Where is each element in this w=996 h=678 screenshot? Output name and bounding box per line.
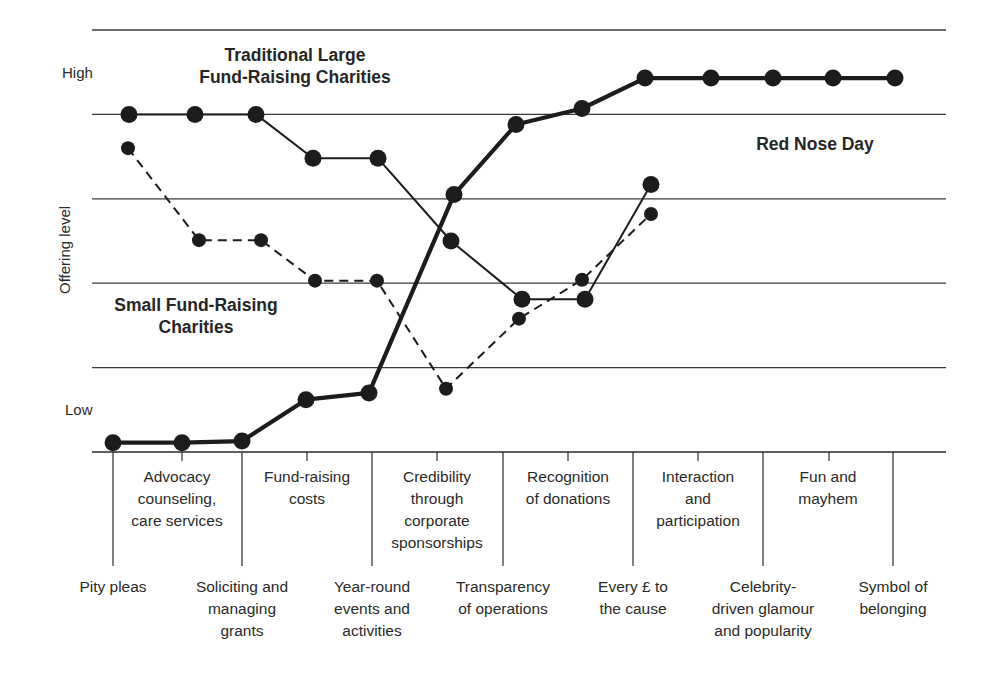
data-point-small-charities	[439, 382, 453, 396]
data-point-red-nose-day	[637, 70, 654, 87]
data-point-small-charities	[192, 233, 206, 247]
x-category-label-lower: Every £ to the cause	[563, 576, 703, 620]
data-point-red-nose-day	[703, 70, 720, 87]
data-point-red-nose-day	[234, 433, 251, 450]
data-point-traditional-large	[187, 106, 204, 123]
data-point-traditional-large	[443, 233, 460, 250]
y-level-low: Low	[65, 401, 93, 418]
x-category-label-lower: Celebrity- driven glamour and popularity	[693, 576, 833, 642]
x-category-label-lower: Symbol of belonging	[823, 576, 963, 620]
series-lines	[105, 70, 904, 452]
x-category-label-lower: Pity pleas	[43, 576, 183, 598]
x-category-label-lower: Soliciting and managing grants	[172, 576, 312, 642]
data-point-red-nose-day	[446, 186, 463, 203]
data-point-red-nose-day	[174, 434, 191, 451]
data-point-red-nose-day	[574, 100, 591, 117]
data-point-traditional-large	[121, 106, 138, 123]
data-point-red-nose-day	[508, 116, 525, 133]
data-point-red-nose-day	[765, 70, 782, 87]
y-axis-title: Offering level	[56, 206, 73, 294]
data-point-red-nose-day	[105, 434, 122, 451]
data-point-red-nose-day	[298, 391, 315, 408]
series-line-traditional-large	[129, 114, 651, 299]
data-point-red-nose-day	[361, 384, 378, 401]
data-point-small-charities	[644, 207, 658, 221]
data-point-small-charities	[121, 141, 135, 155]
x-category-label-upper: Recognition of donations	[504, 466, 632, 510]
data-point-red-nose-day	[825, 70, 842, 87]
x-category-label-upper: Fun and mayhem	[764, 466, 892, 510]
data-point-red-nose-day	[887, 70, 904, 87]
series-line-small-charities	[128, 148, 651, 389]
data-point-traditional-large	[248, 106, 265, 123]
x-category-label-upper: Credibility through corporate sponsorshi…	[373, 466, 501, 554]
series-label-small: Small Fund-Raising Charities	[86, 294, 306, 338]
data-point-small-charities	[370, 274, 384, 288]
y-level-high: High	[62, 64, 93, 81]
data-point-traditional-large	[577, 291, 594, 308]
data-point-traditional-large	[370, 150, 387, 167]
x-category-label-upper: Fund-raising costs	[243, 466, 371, 510]
data-point-traditional-large	[643, 176, 660, 193]
x-category-label-upper: Interaction and participation	[634, 466, 762, 532]
data-point-traditional-large	[305, 150, 322, 167]
data-point-small-charities	[308, 274, 322, 288]
data-point-small-charities	[575, 273, 589, 287]
x-category-label-lower: Transparency of operations	[433, 576, 573, 620]
data-point-small-charities	[512, 312, 526, 326]
data-point-small-charities	[254, 233, 268, 247]
x-category-label-upper: Advocacy counseling, care services	[113, 466, 241, 532]
x-category-label-lower: Year-round events and activities	[302, 576, 442, 642]
data-point-traditional-large	[514, 291, 531, 308]
series-label-traditional: Traditional Large Fund-Raising Charities	[170, 44, 420, 88]
series-label-red-nose-day: Red Nose Day	[730, 133, 900, 155]
